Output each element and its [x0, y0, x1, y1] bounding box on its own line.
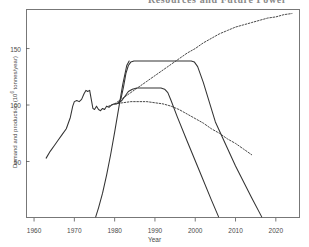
x-tick-label: 2020 [269, 227, 283, 234]
series-line [119, 88, 219, 217]
x-tick-label: 2000 [188, 227, 202, 234]
series-line [46, 61, 262, 217]
x-tick-label: 2010 [228, 227, 242, 234]
series-line [115, 14, 292, 104]
x-tick-label: 1980 [107, 227, 121, 234]
series-line [109, 102, 252, 155]
x-axis-label: Year [0, 236, 309, 243]
y-axis-label-suffix: tonnes/year) [12, 56, 18, 91]
series-group [46, 14, 292, 217]
y-axis-label-prefix: Demand and production (10 [12, 94, 18, 168]
plot-area [26, 9, 300, 218]
y-axis-label: Demand and production (106 tonnes/year) [10, 12, 18, 212]
x-tick-label: 1960 [27, 227, 41, 234]
x-tick-label: 1990 [148, 227, 162, 234]
y-axis-label-exponent: 6 [10, 91, 15, 94]
figure-container: 196019701980199020002010202050100150 Yea… [0, 0, 309, 247]
x-tick-label: 1970 [67, 227, 81, 234]
